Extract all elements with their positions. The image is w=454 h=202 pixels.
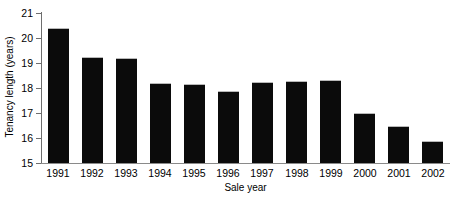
x-axis-tick-label: 1998 [280, 167, 314, 180]
x-axis-tick-label: 1995 [177, 167, 211, 180]
x-axis-tick-label: 1997 [245, 167, 279, 180]
y-axis-tick-label-text: 17 [0, 108, 33, 118]
x-axis-tick-label: 1992 [75, 167, 109, 180]
y-axis-tick-label: 19 [0, 58, 33, 68]
bar [82, 57, 103, 163]
bar [218, 91, 239, 163]
bar [354, 113, 375, 163]
bar [320, 80, 341, 163]
bar [388, 126, 409, 163]
x-axis-tick-label: 2000 [348, 167, 382, 180]
bar [116, 58, 137, 163]
plot-area [41, 13, 450, 163]
bar [48, 28, 69, 163]
y-axis-tick [36, 163, 41, 164]
x-axis-tick-label: 1993 [109, 167, 143, 180]
x-axis-tick-label: 2002 [416, 167, 450, 180]
y-axis-tick-label: 17 [0, 108, 33, 118]
x-axis-tick-label: 1991 [41, 167, 75, 180]
x-axis-line [41, 163, 450, 164]
bar [150, 83, 171, 163]
y-axis-tick-label-text: 15 [0, 158, 33, 168]
y-axis-tick-label: 20 [0, 33, 33, 43]
y-axis-tick-label-text: 20 [0, 33, 33, 43]
bar [422, 141, 443, 163]
x-axis-title: Sale year [41, 182, 450, 194]
y-axis-tick-label: 18 [0, 83, 33, 93]
y-axis-tick-label-text: 19 [0, 58, 33, 68]
y-axis-tick-label-text: 16 [0, 133, 33, 143]
y-axis-tick-label: 15 [0, 158, 33, 168]
x-axis-tick-label: 1999 [314, 167, 348, 180]
y-axis-tick-label: 21 [0, 8, 33, 18]
x-axis-tick-label: 1994 [143, 167, 177, 180]
y-axis-tick-label-text: 21 [0, 8, 33, 18]
bar [252, 82, 273, 163]
bar-chart: Tenancy length (years) 15161718192021 19… [0, 0, 454, 202]
x-axis-tick-label: 2001 [382, 167, 416, 180]
y-axis-tick-label-text: 18 [0, 83, 33, 93]
bar [286, 81, 307, 163]
x-axis-tick-label: 1996 [211, 167, 245, 180]
bar [184, 84, 205, 163]
y-axis-tick-label: 16 [0, 133, 33, 143]
